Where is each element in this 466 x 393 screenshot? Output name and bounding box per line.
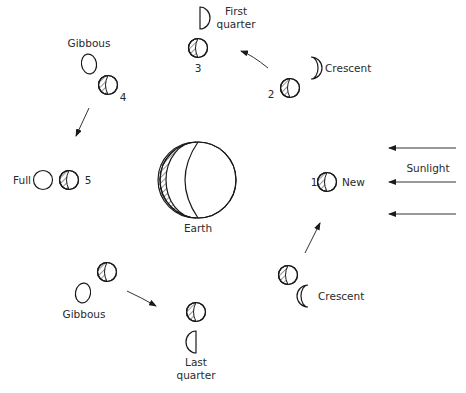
sunlight-arrows <box>389 148 456 214</box>
earth-label: Earth <box>184 222 212 234</box>
last-quarter-icon <box>186 331 196 353</box>
position-8-phase: Crescent <box>318 290 364 302</box>
position-3-phase-line2: quarter <box>217 18 257 30</box>
crescent-waning-icon <box>297 285 308 307</box>
position-4-phase: Gibbous <box>68 37 111 49</box>
orbit-arrow <box>76 108 89 136</box>
gibbous-waning-icon <box>74 282 92 304</box>
position-5-phase: Full <box>13 174 31 186</box>
moon-position-7 <box>187 303 206 322</box>
position-1-number: 1 <box>311 176 318 188</box>
position-5-number: 5 <box>85 174 92 186</box>
moon-position-4 <box>99 76 118 95</box>
position-3-number: 3 <box>195 62 202 74</box>
position-7-phase-line1: Last <box>185 356 207 368</box>
moon-position-8 <box>279 266 298 285</box>
position-7-phase-line2: quarter <box>177 369 217 381</box>
moon-position-3 <box>189 39 208 58</box>
position-6-phase: Gibbous <box>63 308 106 320</box>
moon-position-2 <box>281 79 300 98</box>
orbit-arrow <box>305 223 320 253</box>
position-3-phase-line1: First <box>225 5 247 17</box>
crescent-waxing-icon <box>311 57 322 79</box>
moon-position-5 <box>60 171 79 190</box>
first-quarter-icon <box>200 7 210 29</box>
position-2-phase: Crescent <box>325 62 371 74</box>
gibbous-waxing-icon <box>80 53 98 75</box>
position-4-number: 4 <box>120 91 127 103</box>
earth <box>158 142 236 218</box>
orbit-arrow <box>127 291 156 306</box>
position-2-number: 2 <box>268 88 275 100</box>
moon-position-6 <box>98 263 117 282</box>
moon-position-1 <box>318 173 337 192</box>
orbit-arrow <box>241 51 268 68</box>
sunlight-label: Sunlight <box>406 162 449 174</box>
moon-phases-diagram: Earth Sunlight 1 New 2 Crescent 3 First … <box>0 0 466 393</box>
position-1-phase: New <box>342 176 365 188</box>
full-moon-icon <box>34 171 53 190</box>
